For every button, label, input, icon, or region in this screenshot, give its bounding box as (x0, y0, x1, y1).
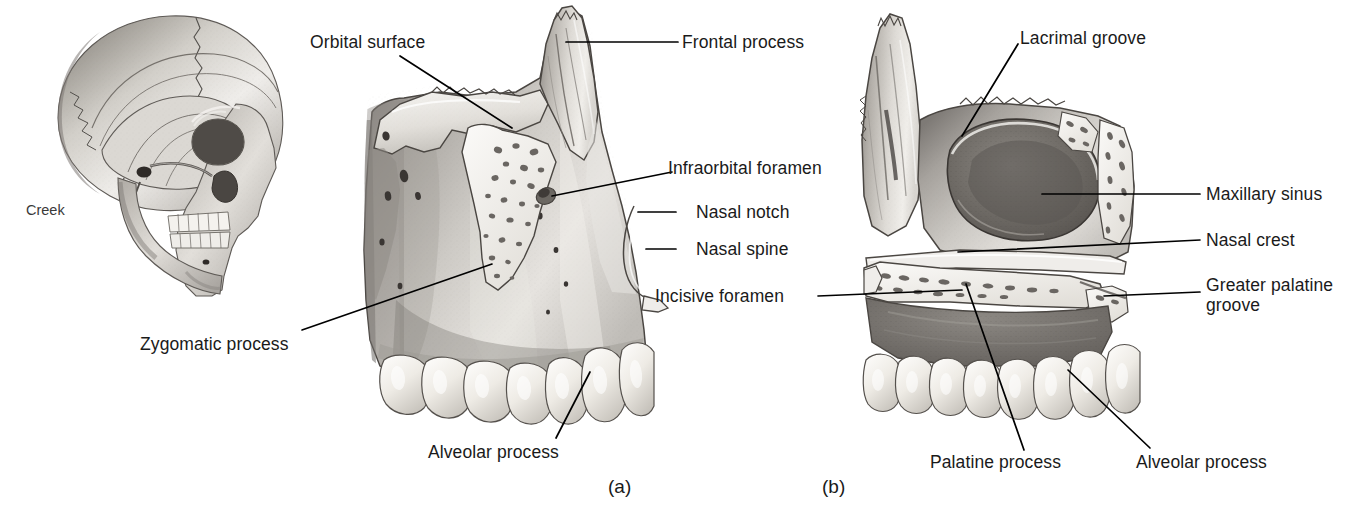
label-orbital-surface: Orbital surface (310, 32, 425, 52)
caption-panel-b: (b) (822, 476, 845, 498)
nasal-aperture (212, 171, 238, 202)
label-alveolar-process-a: Alveolar process (428, 442, 559, 462)
label-nasal-notch: Nasal notch (696, 202, 790, 222)
label-zygomatic-process: Zygomatic process (140, 334, 289, 354)
caption-panel-a: (a) (608, 476, 631, 498)
artist-signature: Creek (26, 202, 65, 218)
label-frontal-process: Frontal process (682, 32, 804, 52)
label-incisive-foramen: Incisive foramen (655, 286, 784, 306)
label-maxillary-sinus: Maxillary sinus (1206, 184, 1322, 204)
label-nasal-crest: Nasal crest (1206, 230, 1295, 250)
figure-canvas: Creek (0, 0, 1358, 520)
label-lacrimal-groove: Lacrimal groove (1020, 28, 1146, 48)
skull-upper-teeth (168, 212, 230, 232)
skull-lower-teeth (170, 232, 230, 248)
label-alveolar-process-b: Alveolar process (1136, 452, 1267, 472)
anatomy-figure: Creek (0, 0, 1358, 520)
label-nasal-spine: Nasal spine (696, 239, 789, 259)
mental-foramen (203, 259, 210, 264)
label-greater-palatine-groove: Greater palatine groove (1206, 275, 1336, 315)
label-infraorbital-foramen: Infraorbital foramen (668, 158, 822, 178)
auditory-meatus (137, 167, 152, 178)
label-palatine-process: Palatine process (930, 452, 1061, 472)
